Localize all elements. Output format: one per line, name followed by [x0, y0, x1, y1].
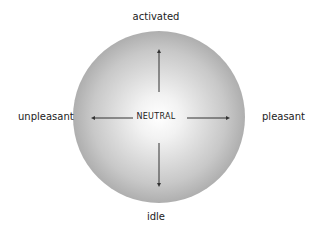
- label-neutral: NEUTRAL: [0, 112, 312, 121]
- label-idle: idle: [0, 211, 312, 222]
- label-activated: activated: [0, 11, 312, 22]
